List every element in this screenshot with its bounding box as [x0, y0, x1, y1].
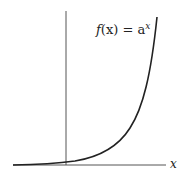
exponential-curve — [13, 17, 157, 165]
x-axis-label: x — [170, 157, 177, 171]
function-label: f(x) = ax — [95, 21, 150, 37]
exponential-graph: f(x) = ax x — [0, 0, 184, 181]
